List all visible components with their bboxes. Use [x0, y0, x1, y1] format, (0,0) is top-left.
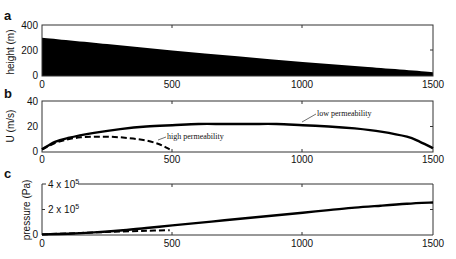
height-area: [42, 38, 433, 76]
xtick-b-500: 500: [164, 154, 181, 165]
xtick-a-1500: 1500: [422, 79, 445, 90]
ytick-a-200: 200: [21, 45, 38, 56]
y-axis-label-a: height (m): [5, 29, 16, 74]
panel-letter-b: b: [4, 86, 12, 101]
panel-c: c pressure (Pa) 4 x 105 2 x 105 0 0 500 …: [4, 166, 445, 249]
ytick-b-40: 40: [27, 96, 39, 107]
xtick-a-0: 0: [39, 79, 45, 90]
xtick-c-1500: 1500: [422, 238, 445, 249]
xtick-a-500: 500: [164, 79, 181, 90]
plot-frame-b: [42, 101, 433, 152]
low-permeability-pressure-line: [42, 203, 433, 235]
low-permeability-line: [42, 124, 433, 150]
xtick-b-0: 0: [39, 154, 45, 165]
panel-a: a height (m) 400 200 0 0 500 1000 1500: [4, 8, 445, 90]
ytick-b-0: 0: [32, 146, 38, 157]
xtick-a-1000: 1000: [291, 79, 314, 90]
ytick-b-20: 20: [27, 121, 39, 132]
annotation-low-permeability: low permeability: [317, 109, 371, 118]
xtick-b-1500: 1500: [422, 154, 445, 165]
ytick-c-4e5: 4 x 105: [48, 178, 79, 190]
xtick-c-500: 500: [164, 238, 181, 249]
figure: a height (m) 400 200 0 0 500 1000 1500 b…: [0, 0, 456, 259]
y-axis-label-b: U (m/s): [5, 110, 16, 143]
panel-letter-a: a: [4, 8, 12, 23]
xtick-b-1000: 1000: [291, 154, 314, 165]
annotation-leader-high: [158, 137, 166, 140]
annotation-high-permeability: high permeability: [167, 132, 224, 141]
ytick-c-0: 0: [32, 229, 38, 240]
xtick-c-0: 0: [39, 238, 45, 249]
ytick-a-0: 0: [32, 70, 38, 81]
panel-b: b U (m/s) low permeability high permeabi…: [4, 86, 445, 165]
ytick-c-2e5: 2 x 105: [48, 203, 79, 215]
panel-letter-c: c: [4, 166, 11, 181]
xtick-c-1000: 1000: [291, 238, 314, 249]
annotation-leader-low: [302, 114, 316, 122]
ytick-a-400: 400: [21, 20, 38, 31]
y-axis-label-c: pressure (Pa): [21, 180, 32, 241]
